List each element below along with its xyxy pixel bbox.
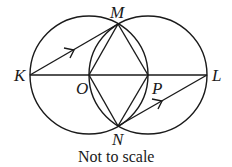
label-o: O xyxy=(76,79,88,98)
label-l: L xyxy=(211,66,221,85)
line-mp xyxy=(118,24,148,75)
label-m: M xyxy=(109,3,125,22)
label-n: N xyxy=(111,130,125,149)
line-no xyxy=(89,75,118,126)
geometry-diagram: K L M N O P Not to scale xyxy=(0,0,232,167)
line-np xyxy=(118,75,148,126)
label-p: P xyxy=(151,79,162,98)
label-k: K xyxy=(13,66,27,85)
caption-not-to-scale: Not to scale xyxy=(78,148,154,165)
